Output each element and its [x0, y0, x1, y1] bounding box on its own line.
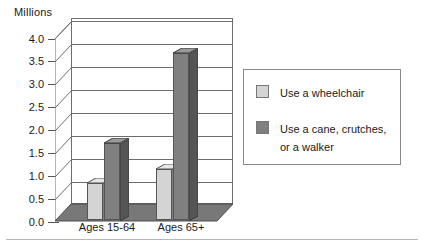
y-tick-label-2-0: 2.0 [14, 124, 44, 136]
page-divider [6, 239, 418, 240]
bar-top [173, 48, 189, 53]
legend-entry-cane: Use a cane, crutches,or a walker [256, 120, 386, 156]
bar-front [173, 53, 189, 220]
y-tick-label-3-0: 3.0 [14, 78, 44, 90]
y-tick-label-4-0: 4.0 [14, 33, 44, 45]
plot-area [55, 18, 233, 220]
y-tick-mark-0-0 [48, 222, 59, 223]
bar-cane-ages-65-plus [173, 49, 189, 220]
y-tick-label-1-0: 1.0 [14, 170, 44, 182]
gridline-3-0 [71, 67, 233, 68]
bar-front [104, 143, 120, 220]
y-axis-title: Millions [14, 6, 52, 18]
x-tick-label-ages-65-plus: Ages 65+ [148, 221, 214, 233]
gridline-1-5 [71, 136, 233, 137]
gridline-4-0 [71, 21, 233, 22]
x-tick-label-ages-15-64: Ages 15-64 [70, 221, 144, 233]
bar-top [104, 138, 120, 143]
bar-wheelchair-ages-65-plus [156, 165, 172, 220]
bar-top [87, 178, 103, 183]
y-tick-label-0-0: 0.0 [14, 216, 44, 228]
y-tick-label-2-5: 2.5 [14, 101, 44, 113]
gridline-2-5 [71, 90, 233, 91]
chart-legend: Use a wheelchair Use a cane, crutches,or… [243, 69, 401, 165]
legend-entry-wheelchair: Use a wheelchair [256, 84, 364, 102]
axis-left-wall [55, 18, 72, 220]
bar-front [87, 183, 103, 220]
legend-swatch-cane-icon [256, 121, 269, 134]
legend-label-cane: Use a cane, crutches,or a walker [280, 120, 386, 156]
bar-top [156, 164, 172, 169]
bar-cane-ages-15-64 [104, 139, 120, 220]
legend-label-wheelchair: Use a wheelchair [280, 84, 364, 102]
axis-floor [55, 203, 233, 221]
y-tick-label-3-5: 3.5 [14, 55, 44, 67]
gridline-1-0 [71, 159, 233, 160]
y-tick-label-1-5: 1.5 [14, 147, 44, 159]
chart-figure: Millions 4.0 3.5 3.0 2.5 2.0 1.5 1.0 0.5… [0, 0, 424, 249]
bar-wheelchair-ages-15-64 [87, 179, 103, 220]
legend-label-cane-line2: or a walker [280, 138, 386, 156]
bar-front [156, 169, 172, 220]
legend-label-cane-line1: Use a cane, crutches, [280, 123, 386, 135]
bar-side [189, 49, 197, 216]
bar-side [120, 139, 128, 216]
axis-back-wall [71, 18, 233, 204]
legend-swatch-wheelchair-icon [256, 85, 269, 98]
gridline-3-5 [71, 44, 233, 45]
y-tick-label-0-5: 0.5 [14, 193, 44, 205]
gridline-2-0 [71, 113, 233, 114]
